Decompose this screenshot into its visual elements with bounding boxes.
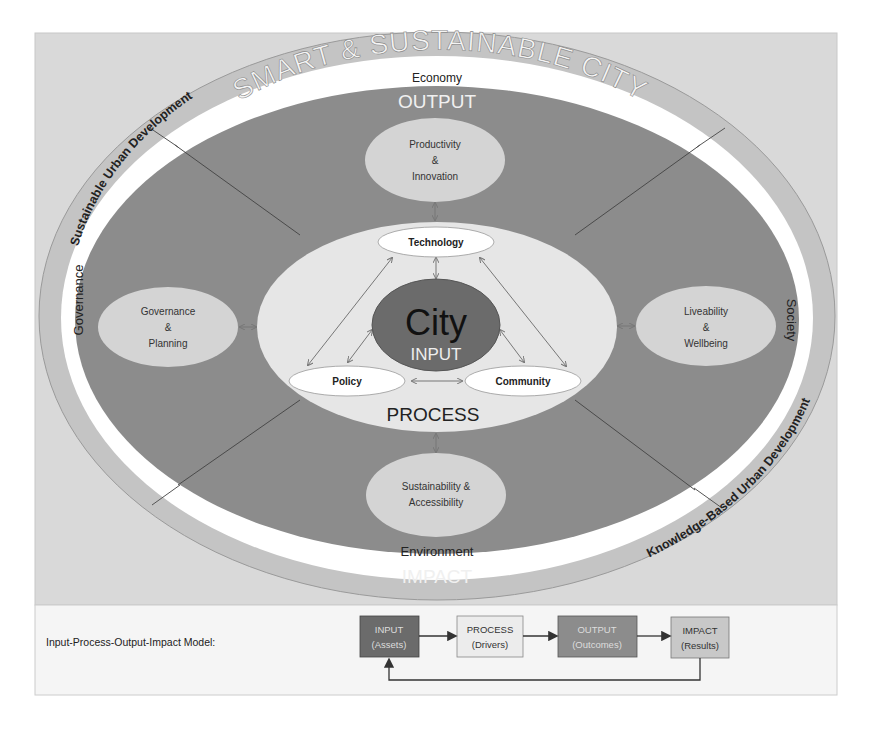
outcome-node-sustainability-accessibility: Sustainability & Accessibility [366,453,506,537]
input-label: INPUT [411,345,462,364]
svg-text:Liveability: Liveability [684,306,728,317]
legend-box-impact: IMPACT (Results) [671,617,729,658]
domain-society: Society [784,299,799,342]
svg-text:Innovation: Innovation [412,171,458,182]
svg-text:PROCESS: PROCESS [467,624,513,635]
legend-box-output: OUTPUT (Outcomes) [558,616,637,657]
svg-text:OUTPUT: OUTPUT [577,624,616,635]
svg-text:&: & [703,322,710,333]
outcome-node-productivity-innovation: Productivity & Innovation [365,118,505,202]
output-label: OUTPUT [398,91,477,112]
driver-node-community: Community [465,366,581,396]
svg-text:Community: Community [496,376,551,387]
svg-text:IMPACT: IMPACT [682,625,717,636]
svg-text:Governance: Governance [141,306,196,317]
svg-text:Productivity: Productivity [409,139,461,150]
legend-label: Input-Process-Output-Impact Model: [46,636,215,648]
process-label: PROCESS [387,404,480,425]
svg-text:Policy: Policy [332,376,362,387]
svg-text:&: & [432,155,439,166]
svg-text:(Assets): (Assets) [372,639,407,650]
domain-environment: Environment [401,544,474,559]
svg-text:Sustainability &: Sustainability & [402,481,471,492]
svg-text:(Results): (Results) [681,640,719,651]
svg-text:Technology: Technology [408,237,464,248]
outcome-node-liveability-wellbeing: Liveability & Wellbeing [636,286,776,366]
domain-governance: Governance [71,265,86,336]
impact-label: IMPACT [402,566,473,587]
legend-box-input: INPUT (Assets) [360,616,419,657]
svg-text:INPUT: INPUT [375,624,404,635]
svg-text:Planning: Planning [149,338,188,349]
svg-text:Accessibility: Accessibility [409,497,463,508]
city-core: City INPUT [372,279,500,371]
svg-text:&: & [165,322,172,333]
smart-sustainable-city-diagram: SMART & SUSTAINABLE CITY Sustainable Urb… [0,0,873,736]
driver-node-technology: Technology [378,227,494,257]
driver-node-policy: Policy [289,366,405,396]
domain-economy: Economy [412,71,462,85]
city-label: City [405,302,467,343]
outcome-node-governance-planning: Governance & Planning [98,287,238,367]
svg-text:(Drivers): (Drivers) [472,639,508,650]
svg-text:Wellbeing: Wellbeing [684,338,728,349]
svg-text:(Outcomes): (Outcomes) [572,639,622,650]
legend-box-process: PROCESS (Drivers) [457,616,523,657]
